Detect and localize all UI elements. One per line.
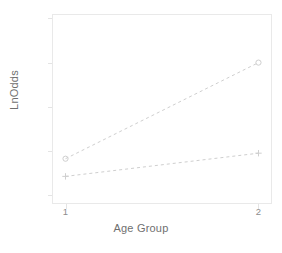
y-tick-mark — [48, 18, 52, 19]
x-tick-mark — [258, 204, 259, 209]
y-tick-mark — [48, 63, 52, 64]
y-tick-mark — [48, 151, 52, 152]
plot-area — [52, 14, 272, 204]
series-layer — [52, 14, 272, 204]
x-tick-mark — [66, 204, 67, 209]
y-axis-label: LnOdds — [8, 45, 20, 135]
chart-figure: LnOdds Age Group -2.2-2.6-3.0-3.4-3.812 — [0, 0, 282, 253]
series-line — [66, 63, 259, 159]
chart-title — [50, 0, 250, 2]
x-axis-label: Age Group — [0, 222, 282, 234]
data-point-circle-marker — [256, 60, 261, 65]
series-line — [66, 153, 259, 176]
series-upper — [63, 60, 261, 161]
y-tick-mark — [48, 107, 52, 108]
series-lower — [62, 150, 261, 180]
data-point-plus-marker — [255, 150, 261, 156]
data-point-plus-marker — [62, 173, 68, 179]
y-tick-mark — [48, 195, 52, 196]
